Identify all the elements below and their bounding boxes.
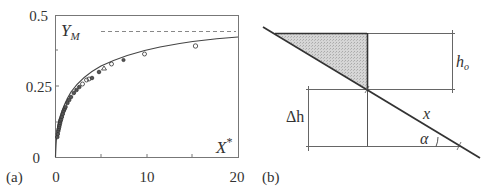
- fitted-curve: [56, 37, 239, 157]
- x-label: x: [422, 105, 430, 122]
- inclined-line: [263, 27, 480, 158]
- panel-label-a: (a): [6, 169, 23, 186]
- xstar-label: X*: [215, 135, 232, 157]
- panel-b-diagram: ho Δh x α (b): [262, 27, 480, 186]
- ho-label: ho: [456, 53, 469, 72]
- delta-h-label: Δh: [286, 108, 304, 125]
- y-tick-label-0.25: 0.25: [26, 79, 52, 95]
- x-tick-label-10: 10: [140, 169, 155, 185]
- panel-a-chart: 0.5 0.25 0 0 10 20 (a) YM X*: [6, 8, 245, 186]
- figure: 0.5 0.25 0 0 10 20 (a) YM X*: [0, 0, 496, 194]
- data-points: [56, 44, 198, 139]
- y-tick-label-0.5: 0.5: [29, 8, 48, 24]
- alpha-angle-arc: [436, 137, 438, 147]
- x-tick-label-0: 0: [52, 169, 60, 185]
- ym-label: YM: [61, 21, 80, 42]
- alpha-label: α: [420, 130, 429, 147]
- x-tick-label-20: 20: [230, 169, 245, 185]
- plot-frame: [56, 16, 239, 158]
- panel-label-b: (b): [262, 169, 280, 186]
- y-tick-label-0: 0: [33, 150, 41, 166]
